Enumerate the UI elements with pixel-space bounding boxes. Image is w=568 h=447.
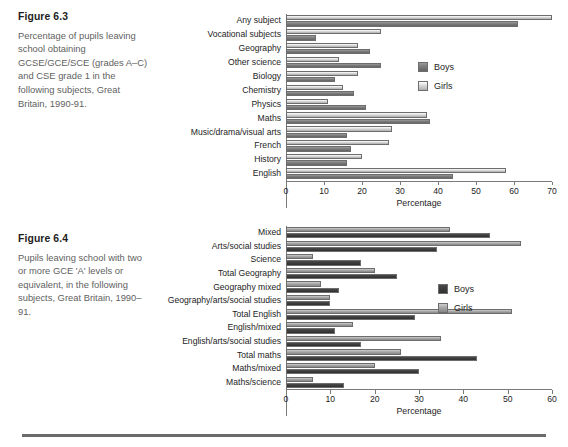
bar-boys	[286, 63, 381, 68]
x-axis-tick-label: 50	[471, 186, 481, 196]
x-axis-tick-label: 0	[284, 186, 289, 196]
x-axis-tick-label: 60	[509, 186, 519, 196]
x-axis-tick-label: 30	[414, 394, 424, 404]
bar-group	[286, 308, 552, 322]
legend-6-3: BoysGirls	[418, 62, 454, 100]
bar-boys	[286, 119, 430, 124]
bar-girls	[286, 227, 450, 232]
bar-group	[286, 167, 552, 181]
legend-6-4: BoysGirls	[438, 284, 474, 322]
bar-row: Biology	[160, 70, 552, 84]
bar-rows-6-3: Any subjectVocational subjectsGeographyO…	[160, 14, 552, 181]
bar-girls	[286, 363, 375, 368]
category-label: Total Geography	[160, 269, 286, 278]
bar-boys	[286, 301, 330, 306]
bar-boys	[286, 49, 370, 54]
x-axis-tick-label: 10	[326, 394, 336, 404]
bar-girls	[286, 309, 512, 314]
bar-boys	[286, 91, 354, 96]
bar-boys	[286, 35, 316, 40]
bar-group	[286, 376, 552, 390]
category-label: Any subject	[160, 16, 286, 25]
figure-6-4-description: Pupils leaving school with two or more G…	[18, 251, 150, 319]
bar-girls	[286, 241, 521, 246]
category-label: Maths	[160, 114, 286, 123]
x-axis-tick	[286, 390, 287, 394]
bar-boys	[286, 260, 361, 265]
bar-girls	[286, 377, 313, 382]
bar-group	[286, 362, 552, 376]
legend-label: Girls	[434, 81, 453, 91]
bar-girls	[286, 15, 552, 20]
bar-group	[286, 28, 552, 42]
bar-boys	[286, 288, 339, 293]
x-axis-tick-label: 20	[370, 394, 380, 404]
bar-girls	[286, 112, 427, 117]
plot-area-6-3: Any subjectVocational subjectsGeographyO…	[160, 14, 552, 208]
bar-row: Mixed	[160, 226, 552, 240]
x-axis-tick	[324, 182, 325, 186]
bar-group	[286, 240, 552, 254]
x-axis-tick-label: 40	[459, 394, 469, 404]
bar-group	[286, 226, 552, 240]
bar-boys	[286, 174, 453, 179]
x-axis-tick-label: 0	[284, 394, 289, 404]
bar-row: Physics	[160, 97, 552, 111]
x-axis-tick-label: 30	[395, 186, 405, 196]
page-bottom-rule	[22, 434, 546, 437]
category-label: Total maths	[160, 351, 286, 360]
x-axis-tick	[362, 182, 363, 186]
category-label: Chemistry	[160, 86, 286, 95]
bar-girls	[286, 57, 339, 62]
bar-row: History	[160, 153, 552, 167]
category-label: Mixed	[160, 228, 286, 237]
bar-boys	[286, 356, 477, 361]
x-axis-tick	[330, 390, 331, 394]
legend-item-boys: Boys	[438, 284, 474, 294]
category-label: Physics	[160, 100, 286, 109]
bar-row: Music/drama/visual arts	[160, 125, 552, 139]
bar-row: English/arts/social studies	[160, 335, 552, 349]
x-axis-title-6-3: Percentage	[286, 198, 552, 208]
bar-row: Maths	[160, 111, 552, 125]
bar-boys	[286, 105, 366, 110]
bar-boys	[286, 315, 415, 320]
bar-boys	[286, 274, 397, 279]
x-axis-tick	[508, 390, 509, 394]
bar-row: Science	[160, 253, 552, 267]
bar-row: Geography mixed	[160, 280, 552, 294]
legend-label: Boys	[454, 284, 474, 294]
category-label: English/mixed	[160, 323, 286, 332]
x-axis-tick-label: 40	[433, 186, 443, 196]
x-axis-tick	[419, 390, 420, 394]
x-axis-tick-label: 70	[547, 186, 557, 196]
figure-6-3-description: Percentage of pupils leaving school obta…	[18, 29, 150, 111]
legend-item-girls: Girls	[418, 81, 454, 91]
bar-girls	[286, 281, 321, 286]
x-axis-tick	[438, 182, 439, 186]
legend-item-girls: Girls	[438, 303, 474, 313]
bar-group	[286, 294, 552, 308]
x-axis-tick	[552, 390, 553, 394]
bar-row: Chemistry	[160, 83, 552, 97]
bar-girls	[286, 85, 343, 90]
legend-label: Boys	[434, 62, 454, 72]
bar-girls	[286, 295, 330, 300]
x-axis-6-4: 0102030405060	[286, 389, 552, 405]
bar-rows-6-4: MixedArts/social studiesScienceTotal Geo…	[160, 226, 552, 389]
bar-row: Other science	[160, 56, 552, 70]
bar-row: English	[160, 167, 552, 181]
bar-boys	[286, 146, 351, 151]
figure-6-4-caption: Figure 6.4 Pupils leaving school with tw…	[18, 232, 150, 319]
legend-swatch-girls	[438, 303, 448, 313]
bar-girls	[286, 126, 392, 131]
x-axis-6-3: 010203040506070	[286, 181, 552, 197]
figure-6-4: Figure 6.4 Pupils leaving school with tw…	[0, 222, 568, 427]
bar-row: Any subject	[160, 14, 552, 28]
bar-girls	[286, 254, 313, 259]
legend-swatch-boys	[418, 62, 428, 72]
bar-girls	[286, 268, 375, 273]
x-axis-tick-label: 50	[503, 394, 513, 404]
category-label: Biology	[160, 72, 286, 81]
figure-6-4-title: Figure 6.4	[18, 232, 150, 246]
